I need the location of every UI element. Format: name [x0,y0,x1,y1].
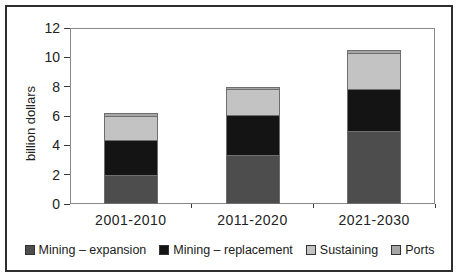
bar-segment-sustaining [226,90,280,116]
legend-item-mining-replacement: Mining – replacement [159,243,293,257]
y-tick-label: 4 [30,138,60,152]
bar-stack [347,50,401,204]
y-tick [64,86,70,87]
legend-swatch-mining-expansion [25,245,35,255]
legend-swatch-ports [391,245,401,255]
bar-segment-sustaining [104,117,158,140]
legend-item-ports: Ports [391,243,434,257]
chart-screenshot: { "figure": { "ylabel": "billion dollars… [0,0,459,277]
x-axis-label: 2021-2030 [313,212,435,228]
legend-swatch-sustaining [306,245,316,255]
y-tick-label: 8 [30,80,60,94]
legend-item-sustaining: Sustaining [306,243,378,257]
y-tick [64,145,70,146]
bar-segment-mining-expansion [104,176,158,204]
bar-segment-mining-replacement [226,116,280,156]
x-tick [191,204,192,208]
bar-stack [226,87,280,204]
y-tick [64,28,70,29]
y-tick-label: 0 [30,197,60,211]
legend: Mining – expansionMining – replacementSu… [8,243,451,257]
legend-item-mining-expansion: Mining – expansion [25,243,147,257]
y-tick [64,204,70,205]
y-tick-label: 2 [30,168,60,182]
legend-swatch-mining-replacement [159,245,169,255]
bar-segment-sustaining [347,54,401,89]
legend-label: Mining – expansion [39,243,147,257]
bar-segment-mining-expansion [226,156,280,204]
x-tick [435,204,436,208]
bar-segment-mining-replacement [347,90,401,133]
y-tick [64,116,70,117]
y-tick-label: 10 [30,50,60,64]
y-tick [64,174,70,175]
y-tick [64,57,70,58]
bar-segment-mining-expansion [347,132,401,204]
legend-label: Sustaining [320,243,378,257]
legend-label: Ports [405,243,434,257]
bar-segment-mining-replacement [104,141,158,176]
bar-stack [104,113,158,204]
y-tick-label: 6 [30,109,60,123]
x-tick [313,204,314,208]
y-tick-label: 12 [30,21,60,35]
x-axis-label: 2011-2020 [192,212,314,228]
legend-label: Mining – replacement [173,243,293,257]
x-axis-label: 2001-2010 [70,212,192,228]
